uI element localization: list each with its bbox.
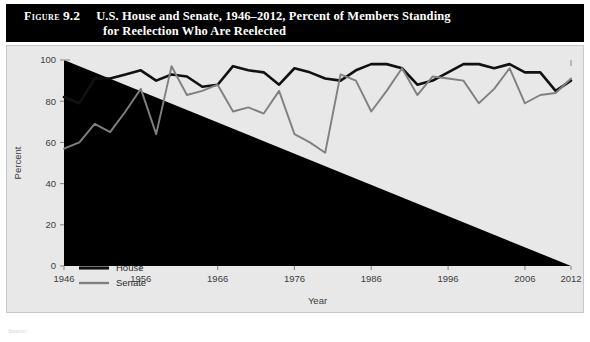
figure-title-text-1: U.S. House and Senate, 1946–2012, Percen…	[96, 9, 450, 23]
line-chart: 0204060801001946195619661976198619962006…	[7, 46, 583, 312]
ytick-label-40: 40	[45, 178, 56, 189]
ytick-label-60: 60	[45, 137, 56, 148]
ytick-label-20: 20	[45, 219, 56, 230]
figure-container: Figure9.2U.S. House and Senate, 1946–201…	[0, 0, 590, 342]
xtick-label-1986: 1986	[361, 273, 382, 284]
ytick-label-0: 0	[51, 260, 56, 271]
ytick-label-80: 80	[45, 96, 56, 107]
legend-label-senate: Senate	[116, 277, 146, 288]
figure-label: Figure	[24, 9, 60, 23]
ytick-label-100: 100	[40, 54, 56, 65]
xtick-label-2012: 2012	[560, 273, 581, 284]
xtick-label-2006: 2006	[514, 273, 535, 284]
source-caption: Source:	[8, 327, 582, 334]
y-axis-title: Percent	[12, 146, 23, 179]
figure-title-bar: Figure9.2U.S. House and Senate, 1946–201…	[6, 4, 584, 42]
xtick-label-1996: 1996	[438, 273, 459, 284]
xtick-label-1946: 1946	[53, 273, 74, 284]
legend-label-house: House	[116, 262, 143, 273]
source-label: Source:	[8, 327, 27, 334]
figure-number: 9.2	[63, 8, 80, 23]
chart-panel: 0204060801001946195619661976198619962006…	[6, 45, 584, 313]
figure-title-line-1: Figure9.2U.S. House and Senate, 1946–201…	[24, 8, 574, 24]
xtick-label-1966: 1966	[207, 273, 228, 284]
figure-title-line-2: for Reelection Who Are Reelected	[103, 24, 574, 39]
x-axis-title: Year	[308, 295, 327, 306]
xtick-label-1976: 1976	[284, 273, 305, 284]
